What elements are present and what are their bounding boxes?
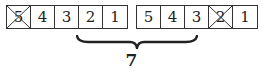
cell-value: 2 bbox=[86, 8, 96, 26]
cell-value: 5 bbox=[144, 8, 154, 26]
cell-left-2: 4 bbox=[31, 6, 55, 28]
cross-out-icon bbox=[7, 6, 30, 28]
cell-left-3: 3 bbox=[55, 6, 79, 28]
cross-out-icon bbox=[209, 6, 232, 28]
brace-label: 7 bbox=[0, 50, 263, 70]
cell-right-5: 1 bbox=[233, 6, 257, 28]
right-cell-group: 5 4 3 2 1 bbox=[136, 5, 258, 29]
left-cell-group: 5 4 3 2 1 bbox=[6, 5, 128, 29]
cell-value: 1 bbox=[240, 8, 250, 26]
cell-right-2: 4 bbox=[161, 6, 185, 28]
cell-right-1: 5 bbox=[137, 6, 161, 28]
cell-left-1: 5 bbox=[7, 6, 31, 28]
cell-value: 4 bbox=[38, 8, 48, 26]
cell-left-4: 2 bbox=[79, 6, 103, 28]
underbrace-icon bbox=[76, 35, 198, 49]
cell-value: 1 bbox=[110, 8, 120, 26]
cell-left-5: 1 bbox=[103, 6, 127, 28]
cell-right-4: 2 bbox=[209, 6, 233, 28]
cell-value: 3 bbox=[192, 8, 202, 26]
cell-value: 4 bbox=[168, 8, 178, 26]
cell-right-3: 3 bbox=[185, 6, 209, 28]
cell-value: 3 bbox=[62, 8, 72, 26]
